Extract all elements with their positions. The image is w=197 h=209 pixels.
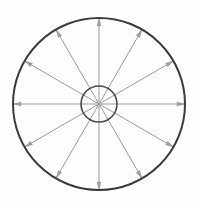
radial-diagram-svg	[0, 0, 197, 209]
diagram-root	[0, 0, 197, 209]
